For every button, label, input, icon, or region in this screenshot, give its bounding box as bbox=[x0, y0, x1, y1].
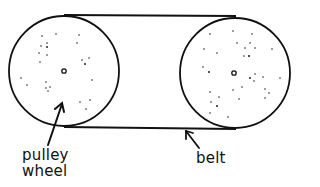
belt-top-segment bbox=[64, 15, 236, 16]
belt-arrow-icon bbox=[186, 131, 199, 148]
pulley-wheel-label: pulley wheel bbox=[22, 147, 82, 179]
belt-label: belt bbox=[196, 150, 226, 166]
right-pulley-wheel bbox=[180, 18, 290, 128]
pulley-label-line2: wheel bbox=[22, 163, 82, 179]
belt-bottom-segment bbox=[64, 127, 236, 129]
pulley-label-line1: pulley bbox=[22, 147, 82, 163]
